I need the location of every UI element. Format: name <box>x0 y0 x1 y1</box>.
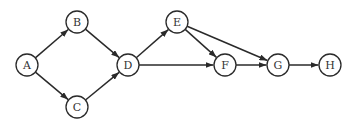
node-label: G <box>274 59 283 72</box>
dependency-graph: ABCDEFGH <box>0 0 358 129</box>
node-c: C <box>66 96 88 118</box>
node-label: F <box>221 59 229 72</box>
edge-d-e <box>136 30 168 58</box>
node-label: C <box>73 101 81 114</box>
edge-a-b <box>35 29 68 57</box>
node-d: D <box>117 54 139 76</box>
edge-b-d <box>85 29 119 57</box>
node-label: H <box>325 59 335 72</box>
edge-a-c <box>35 72 68 100</box>
edge-e-f <box>185 29 216 57</box>
node-e: E <box>166 11 188 33</box>
node-f: F <box>214 54 236 76</box>
node-g: G <box>267 54 289 76</box>
node-label: A <box>22 59 32 72</box>
node-label: E <box>173 16 181 29</box>
node-h: H <box>319 54 341 76</box>
node-label: D <box>124 59 133 72</box>
node-b: B <box>66 11 88 33</box>
node-a: A <box>16 54 38 76</box>
node-label: B <box>73 16 81 29</box>
edge-c-d <box>85 72 119 100</box>
